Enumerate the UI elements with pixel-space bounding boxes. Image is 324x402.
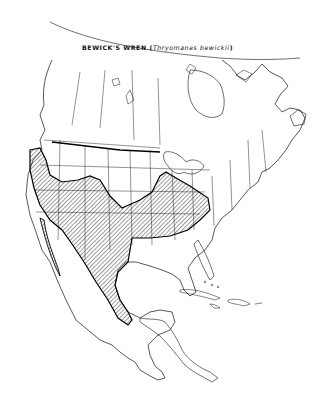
- great-lakes: [164, 152, 204, 174]
- newfoundland: [290, 110, 306, 126]
- florida: [194, 240, 214, 280]
- central-america: [140, 318, 218, 382]
- map-canvas: [0, 0, 324, 402]
- hudson-bay: [188, 70, 224, 117]
- range-map: BEWICK'S WREN (Thryomanes bewickii): [0, 0, 324, 402]
- caribbean-islands: [180, 281, 262, 308]
- breeding-range: [30, 148, 210, 325]
- baja-california: [40, 218, 60, 276]
- arctic-islands: [112, 64, 252, 104]
- arctic-coastline: [50, 22, 300, 60]
